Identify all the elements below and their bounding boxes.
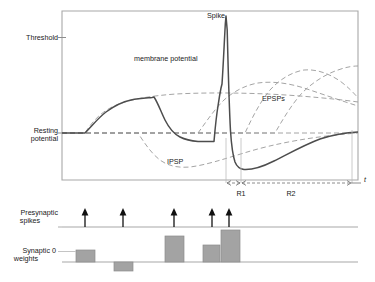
synaptic-weight-bars <box>76 230 240 271</box>
refractory-guides <box>226 130 352 183</box>
presynaptic-spike-arrow <box>120 208 127 227</box>
presynaptic-spike-arrow <box>226 208 233 227</box>
epsp-curves <box>62 66 358 133</box>
synaptic-weight-bar <box>203 245 220 262</box>
synaptic-weight-bar <box>221 230 240 262</box>
epsp-curve-4 <box>62 66 358 133</box>
synaptic-weight-bar <box>165 236 184 262</box>
synaptic-weight-bar <box>76 250 95 262</box>
presynaptic-spike-arrow <box>171 208 178 227</box>
synaptic-weight-bar <box>114 262 133 271</box>
epsp-curve-2 <box>62 82 358 133</box>
plot-frame <box>62 11 358 180</box>
presynaptic-spike-arrows <box>82 208 233 227</box>
presynaptic-spike-arrow <box>209 208 216 227</box>
refractory-measure-r1 <box>227 181 240 186</box>
ipsp-curve <box>62 133 358 167</box>
neuron-membrane-potential-figure: Threshold Resting potential Presynaptic … <box>0 0 375 282</box>
epsp-curve-3 <box>62 70 358 133</box>
epsp-curve-1 <box>62 93 358 133</box>
figure-canvas <box>0 0 375 282</box>
presynaptic-spike-arrow <box>82 208 89 227</box>
refractory-measure-r2 <box>242 181 351 186</box>
